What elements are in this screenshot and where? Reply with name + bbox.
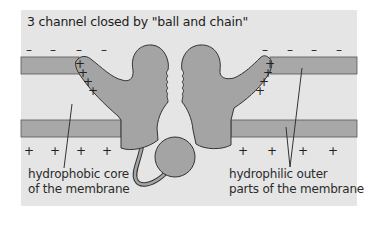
svg-text:–: – bbox=[336, 43, 342, 57]
svg-text:+: + bbox=[267, 144, 277, 158]
svg-text:+: + bbox=[76, 144, 86, 158]
svg-text:+: + bbox=[328, 144, 338, 158]
svg-text:–: – bbox=[101, 43, 107, 57]
svg-text:–: – bbox=[311, 43, 317, 57]
label-core-line1: hydrophobic core bbox=[28, 167, 130, 182]
label-hydrophilic-outer: hydrophilic outer parts of the membrane bbox=[229, 167, 364, 197]
svg-text:+: + bbox=[298, 144, 308, 158]
upper-band-right bbox=[270, 57, 357, 74]
svg-text:–: – bbox=[26, 43, 32, 57]
svg-text:+: + bbox=[88, 84, 98, 98]
svg-text:–: – bbox=[76, 43, 82, 57]
lower-band-left bbox=[21, 120, 121, 137]
svg-text:–: – bbox=[50, 43, 56, 57]
svg-text:+: + bbox=[255, 84, 265, 98]
label-hydrophobic-core: hydrophobic core of the membrane bbox=[28, 167, 130, 197]
svg-text:–: – bbox=[287, 43, 293, 57]
svg-text:+: + bbox=[238, 144, 248, 158]
svg-text:+: + bbox=[50, 144, 60, 158]
label-outer-line1: hydrophilic outer bbox=[229, 167, 364, 182]
upper-band-left bbox=[21, 57, 79, 74]
svg-text:+: + bbox=[102, 144, 112, 158]
inactivation-ball bbox=[155, 137, 195, 177]
label-core-line2: of the membrane bbox=[28, 182, 130, 197]
svg-text:+: + bbox=[24, 144, 34, 158]
label-outer-line2: parts of the membrane bbox=[229, 182, 364, 197]
svg-text:–: – bbox=[262, 43, 268, 57]
